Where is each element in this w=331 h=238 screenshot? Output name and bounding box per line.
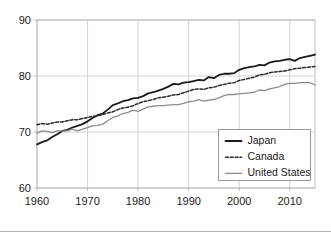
legend-label-canada: Canada bbox=[248, 150, 285, 162]
y-tick-label: 70 bbox=[19, 126, 31, 138]
y-tick-label: 90 bbox=[19, 14, 31, 26]
x-tick-label: 2010 bbox=[277, 195, 301, 207]
line-chart: 60708090 196019701980199020002010 JapanC… bbox=[0, 0, 331, 238]
x-tick-label: 2000 bbox=[227, 195, 251, 207]
chart-legend: JapanCanadaUnited States bbox=[219, 130, 311, 181]
x-tick-label: 1980 bbox=[126, 195, 150, 207]
x-tick-label: 1960 bbox=[25, 195, 49, 207]
legend-label-japan: Japan bbox=[248, 134, 277, 146]
x-tick-label: 1970 bbox=[75, 195, 99, 207]
chart-figure: 60708090 196019701980199020002010 JapanC… bbox=[0, 0, 331, 238]
x-tick-label: 1990 bbox=[176, 195, 200, 207]
y-tick-label: 60 bbox=[19, 182, 31, 194]
y-tick-label: 80 bbox=[19, 70, 31, 82]
y-axis-tick-labels: 60708090 bbox=[19, 14, 31, 194]
legend-label-united-states: United States bbox=[248, 166, 311, 178]
x-axis-tick-labels: 196019701980199020002010 bbox=[25, 195, 302, 207]
series-line-canada bbox=[37, 66, 315, 124]
